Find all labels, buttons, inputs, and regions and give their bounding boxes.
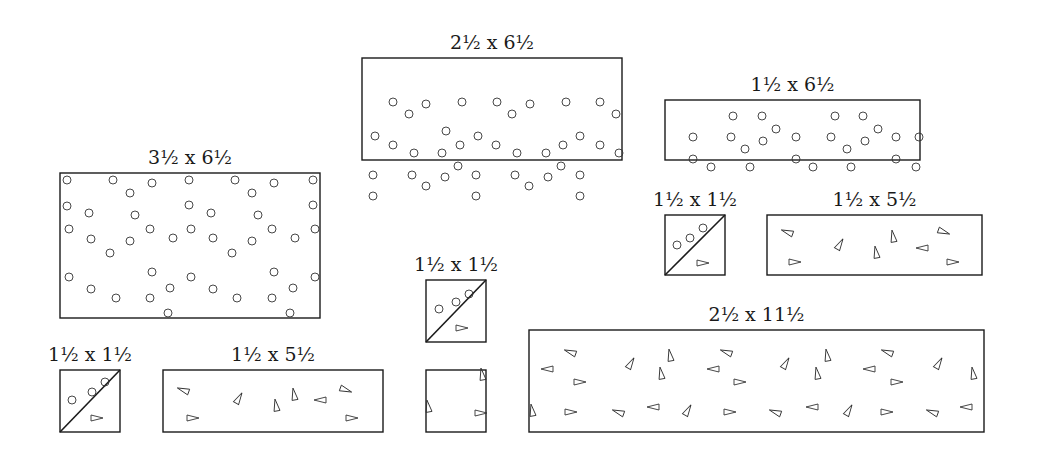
circle-motif-icon <box>493 98 501 106</box>
circle-motif-icon <box>233 294 241 302</box>
triangle-motif-icon <box>937 227 950 237</box>
diagram-canvas: 2½ x 6½1½ x 6½3½ x 6½1½ x 1½1½ x 5½1½ x … <box>0 0 1037 472</box>
circle-motif-icon <box>689 155 697 163</box>
circle-motif-icon <box>164 309 172 317</box>
circle-motif-icon <box>673 241 681 249</box>
circle-motif-icon <box>526 100 534 108</box>
circle-motif-icon <box>831 112 839 120</box>
circle-motif-icon <box>63 176 71 184</box>
circle-motif-icon <box>458 98 466 106</box>
circle-motif-icon <box>166 284 174 292</box>
piece-dimension-label: 1½ x 5½ <box>231 343 315 365</box>
circle-motif-icon <box>892 155 900 163</box>
piece-p10: 2½ x 11½ <box>528 303 984 432</box>
circle-motif-icon <box>559 141 567 149</box>
circle-motif-icon <box>892 133 900 141</box>
piece-dimension-label: 2½ x 11½ <box>709 303 805 325</box>
circle-motif-icon <box>68 396 76 404</box>
circle-motif-icon <box>146 225 154 233</box>
circle-motif-icon <box>270 268 278 276</box>
circle-motif-icon <box>472 192 480 200</box>
circle-motif-icon <box>727 133 735 141</box>
circle-motif-icon <box>87 235 95 243</box>
triangle-motif-icon <box>947 259 959 265</box>
circle-motif-icon <box>268 294 276 302</box>
triangle-motif-icon <box>91 415 103 421</box>
circle-motif-icon <box>410 149 418 157</box>
circle-motif-icon <box>847 163 855 171</box>
circle-motif-icon <box>126 189 134 197</box>
circle-motif-icon <box>576 132 584 140</box>
piece-outline <box>426 370 486 432</box>
triangle-motif-icon <box>780 356 791 369</box>
circle-motif-icon <box>254 211 262 219</box>
triangle-motif-icon <box>697 260 709 266</box>
circle-motif-icon <box>209 234 217 242</box>
circle-motif-icon <box>557 162 565 170</box>
circle-motif-icon <box>185 201 193 209</box>
triangle-motif-icon <box>187 415 199 421</box>
piece-p6: 1½ x 1½ <box>414 253 498 342</box>
triangle-motif-icon <box>834 237 845 250</box>
circle-motif-icon <box>689 133 697 141</box>
circle-motif-icon <box>169 234 177 242</box>
piece-dimension-label: 1½ x 5½ <box>833 188 917 210</box>
piece-outline <box>163 370 383 432</box>
triangle-motif-icon <box>863 366 875 372</box>
triangle-motif-icon <box>734 379 746 385</box>
circle-motif-icon <box>792 155 800 163</box>
circle-motif-icon <box>576 192 584 200</box>
circle-motif-icon <box>809 163 817 171</box>
diagonal-seam-line <box>60 370 120 432</box>
circle-motif-icon <box>596 141 604 149</box>
circle-motif-icon <box>422 100 430 108</box>
circle-motif-icon <box>699 224 707 232</box>
circle-motif-icon <box>63 202 71 210</box>
circle-motif-icon <box>131 211 139 219</box>
circle-motif-icon <box>389 141 397 149</box>
circle-motif-icon <box>291 234 299 242</box>
circle-motif-icon <box>187 225 195 233</box>
circle-motif-icon <box>187 273 195 281</box>
circle-motif-icon <box>513 149 521 157</box>
circle-motif-icon <box>371 132 379 140</box>
circle-motif-icon <box>596 98 604 106</box>
circle-motif-icon <box>248 189 256 197</box>
circle-motif-icon <box>248 237 256 245</box>
triangle-motif-icon <box>889 230 897 243</box>
triangle-motif-icon <box>682 403 693 416</box>
circle-motif-icon <box>369 192 377 200</box>
triangle-motif-icon <box>339 385 352 395</box>
circle-motif-icon <box>544 173 552 181</box>
circle-motif-icon <box>792 133 800 141</box>
triangle-motif-icon <box>233 391 244 404</box>
triangle-motif-icon <box>456 325 468 331</box>
piece-dimension-label: 1½ x 6½ <box>751 73 835 95</box>
circle-motif-icon <box>827 133 835 141</box>
circle-motif-icon <box>309 176 317 184</box>
circle-motif-icon <box>231 176 239 184</box>
circle-motif-icon <box>576 171 584 179</box>
circle-motif-icon <box>286 309 294 317</box>
triangle-motif-icon <box>925 407 938 417</box>
triangle-motif-icon <box>872 246 880 259</box>
circle-motif-icon <box>405 110 413 118</box>
circle-motif-icon <box>85 209 93 217</box>
circle-motif-icon <box>741 145 749 153</box>
circle-motif-icon <box>452 298 460 306</box>
piece-p2: 1½ x 6½ <box>665 73 923 171</box>
circle-motif-icon <box>369 171 377 179</box>
piece-dimension-label: 1½ x 1½ <box>48 343 132 365</box>
triangle-motif-icon <box>272 399 280 412</box>
triangle-motif-icon <box>647 404 659 410</box>
circle-motif-icon <box>435 305 443 313</box>
circle-motif-icon <box>525 182 533 190</box>
circle-motif-icon <box>438 149 446 157</box>
circle-motif-icon <box>474 132 482 140</box>
triangle-motif-icon <box>768 407 781 417</box>
piece-p1: 2½ x 6½ <box>362 31 623 200</box>
circle-motif-icon <box>126 237 134 245</box>
circle-motif-icon <box>562 98 570 106</box>
circle-motif-icon <box>270 179 278 187</box>
piece-dimension-label: 1½ x 1½ <box>653 188 737 210</box>
